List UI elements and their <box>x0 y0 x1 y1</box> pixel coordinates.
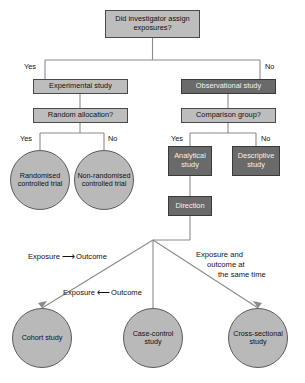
node-descriptive-study-label: Descriptive study <box>235 152 277 169</box>
node-cross-sectional-study-label: Cross-sectional study <box>229 330 287 347</box>
branch-label-root-yes: Yes <box>24 62 36 71</box>
node-random-allocation-question[interactable]: Random allocation? <box>33 108 128 123</box>
annotation-cross-sectional-line1: Exposure and <box>196 250 266 260</box>
node-random-allocation-label: Random allocation? <box>48 111 113 120</box>
node-randomised-controlled-trial-label: Randomised controlled trial <box>11 172 69 189</box>
node-randomised-controlled-trial[interactable]: Randomised controlled trial <box>10 150 70 210</box>
annotation-cross-sectional-line2: outcome at <box>196 260 266 270</box>
node-direction[interactable]: Direction <box>168 196 212 216</box>
node-cohort-study-label: Cohort study <box>22 334 63 342</box>
node-comparison-group-label: Comparison group? <box>196 111 261 120</box>
study-design-flowchart: Did investigator assign exposures? Yes N… <box>0 0 305 383</box>
annotation-cross-sectional-timing: Exposure and outcome at the same time <box>196 250 266 280</box>
node-cohort-study[interactable]: Cohort study <box>12 308 72 368</box>
node-descriptive-study[interactable]: Descriptive study <box>232 146 280 176</box>
branch-label-root-no: No <box>265 62 274 71</box>
arrowhead-cohort <box>38 301 47 308</box>
annotation-case-control-exposure: Exposure <box>63 288 95 297</box>
node-root-question[interactable]: Did investigator assign exposures? <box>105 10 200 38</box>
branch-label-comparison-no: No <box>261 134 270 143</box>
node-root-question-label: Did investigator assign exposures? <box>108 15 197 32</box>
annotation-case-control-outcome: Outcome <box>111 288 142 297</box>
node-experimental-study[interactable]: Experimental study <box>33 79 128 94</box>
edge-junction-to-cohort <box>42 240 153 308</box>
left-arrow-icon: ⟵ <box>97 288 109 297</box>
node-analytical-study[interactable]: Analytical study <box>168 146 212 176</box>
arrowhead-cross-sectional <box>253 301 262 308</box>
node-cross-sectional-study[interactable]: Cross-sectional study <box>228 308 288 368</box>
branch-label-comparison-yes: Yes <box>171 134 183 143</box>
node-analytical-study-label: Analytical study <box>171 152 209 169</box>
node-direction-label: Direction <box>175 202 204 211</box>
branch-label-random-yes: Yes <box>20 134 32 143</box>
node-case-control-study-label: Case-control study <box>124 330 182 347</box>
node-experimental-study-label: Experimental study <box>49 82 112 91</box>
annotation-cross-sectional-line3: the same time <box>196 270 266 280</box>
annotation-cohort-exposure: Exposure <box>28 252 60 261</box>
node-case-control-study[interactable]: Case-control study <box>123 308 183 368</box>
node-comparison-group-question[interactable]: Comparison group? <box>181 108 276 123</box>
annotation-cohort-outcome: Outcome <box>76 252 107 261</box>
node-observational-study[interactable]: Observational study <box>181 79 276 94</box>
right-arrow-icon: ⟶ <box>62 252 74 261</box>
annotation-case-control-direction: Exposure ⟵ Outcome <box>63 288 142 297</box>
node-non-randomised-controlled-trial[interactable]: Non-randomised controlled trial <box>74 150 134 210</box>
node-non-randomised-controlled-trial-label: Non-randomised controlled trial <box>75 172 133 189</box>
annotation-cohort-direction: Exposure ⟶ Outcome <box>28 252 107 261</box>
node-observational-study-label: Observational study <box>196 82 261 91</box>
branch-label-random-no: No <box>108 134 117 143</box>
